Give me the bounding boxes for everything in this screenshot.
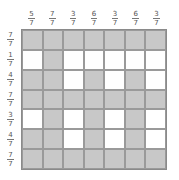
- grid-cell[interactable]: [145, 149, 166, 169]
- row-clue: 47: [0, 69, 21, 89]
- clue-numerator: 3: [153, 10, 159, 19]
- grid-cell[interactable]: [22, 70, 43, 90]
- grid-cell[interactable]: [22, 30, 43, 50]
- clue-numerator: 7: [7, 151, 13, 160]
- clue-numerator: 3: [112, 10, 118, 19]
- column-clue: 37: [104, 8, 125, 28]
- clue-numerator: 3: [7, 111, 13, 120]
- grid-cell[interactable]: [104, 30, 125, 50]
- clue-denominator: 7: [133, 19, 137, 27]
- grid-cell[interactable]: [22, 90, 43, 110]
- column-clue: 67: [125, 8, 146, 28]
- clue-denominator: 7: [8, 120, 12, 128]
- grid-cell[interactable]: [43, 70, 64, 90]
- column-clue: 67: [84, 8, 105, 28]
- grid-cell[interactable]: [63, 50, 84, 70]
- column-clues: 57773767376737: [21, 8, 167, 28]
- grid-cell[interactable]: [125, 50, 146, 70]
- grid-cell[interactable]: [145, 109, 166, 129]
- grid-cell[interactable]: [84, 50, 105, 70]
- row-clue: 77: [0, 89, 21, 109]
- column-clue: 77: [42, 8, 63, 28]
- clue-numerator: 6: [132, 10, 138, 19]
- clue-numerator: 7: [49, 10, 55, 19]
- grid-cell[interactable]: [104, 50, 125, 70]
- row-clue: 17: [0, 49, 21, 69]
- clue-denominator: 7: [50, 19, 54, 27]
- grid-cell[interactable]: [145, 129, 166, 149]
- grid-cell[interactable]: [104, 129, 125, 149]
- clue-denominator: 7: [8, 80, 12, 88]
- grid-cell[interactable]: [145, 70, 166, 90]
- grid-cell[interactable]: [125, 70, 146, 90]
- grid-cell[interactable]: [84, 90, 105, 110]
- grid-cell[interactable]: [43, 109, 64, 129]
- clue-numerator: 6: [91, 10, 97, 19]
- grid-cell[interactable]: [145, 50, 166, 70]
- grid-cell[interactable]: [63, 70, 84, 90]
- clue-numerator: 4: [7, 131, 13, 140]
- grid-cell[interactable]: [104, 149, 125, 169]
- clue-denominator: 7: [92, 19, 96, 27]
- grid-cell[interactable]: [104, 70, 125, 90]
- grid-cell[interactable]: [43, 90, 64, 110]
- grid-cell[interactable]: [63, 90, 84, 110]
- grid-cell[interactable]: [145, 30, 166, 50]
- grid-cell[interactable]: [84, 30, 105, 50]
- grid-cell[interactable]: [125, 109, 146, 129]
- clue-numerator: 7: [7, 91, 13, 100]
- row-clues: 77174777374777: [0, 29, 21, 170]
- clue-denominator: 7: [8, 40, 12, 48]
- grid-cell[interactable]: [22, 149, 43, 169]
- grid-cell[interactable]: [63, 129, 84, 149]
- grid-cell[interactable]: [125, 149, 146, 169]
- puzzle-grid: [21, 29, 167, 170]
- row-clue: 77: [0, 29, 21, 49]
- grid-cell[interactable]: [125, 30, 146, 50]
- grid-cell[interactable]: [22, 109, 43, 129]
- column-clue: 37: [146, 8, 167, 28]
- grid-cell[interactable]: [63, 109, 84, 129]
- row-clue: 47: [0, 130, 21, 150]
- grid-cell[interactable]: [84, 149, 105, 169]
- grid-cell[interactable]: [104, 109, 125, 129]
- grid-cell[interactable]: [43, 30, 64, 50]
- grid-cell[interactable]: [104, 90, 125, 110]
- clue-numerator: 7: [7, 31, 13, 40]
- grid-cell[interactable]: [84, 129, 105, 149]
- clue-numerator: 5: [28, 10, 34, 19]
- grid-cell[interactable]: [63, 30, 84, 50]
- clue-denominator: 7: [8, 100, 12, 108]
- grid-cell[interactable]: [22, 129, 43, 149]
- grid-cell[interactable]: [43, 50, 64, 70]
- grid-cell[interactable]: [43, 129, 64, 149]
- grid-cell[interactable]: [84, 109, 105, 129]
- clue-denominator: 7: [8, 160, 12, 168]
- grid-cell[interactable]: [125, 90, 146, 110]
- clue-numerator: 1: [7, 51, 13, 60]
- clue-denominator: 7: [8, 60, 12, 68]
- row-clue: 77: [0, 150, 21, 170]
- grid-cell[interactable]: [125, 129, 146, 149]
- column-clue: 37: [63, 8, 84, 28]
- clue-numerator: 3: [70, 10, 76, 19]
- clue-denominator: 7: [71, 19, 75, 27]
- clue-numerator: 4: [7, 71, 13, 80]
- column-clue: 57: [21, 8, 42, 28]
- clue-denominator: 7: [29, 19, 33, 27]
- grid-cell[interactable]: [22, 50, 43, 70]
- clue-denominator: 7: [113, 19, 117, 27]
- grid-cell[interactable]: [84, 70, 105, 90]
- clue-denominator: 7: [8, 140, 12, 148]
- grid-cell[interactable]: [63, 149, 84, 169]
- clue-denominator: 7: [154, 19, 158, 27]
- row-clue: 37: [0, 110, 21, 130]
- grid-cell[interactable]: [145, 90, 166, 110]
- grid-cell[interactable]: [43, 149, 64, 169]
